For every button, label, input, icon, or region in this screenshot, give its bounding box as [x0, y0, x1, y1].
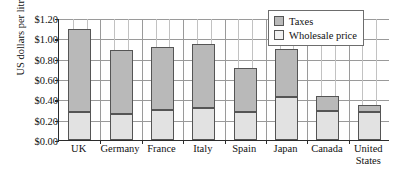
x-axis-tick-label-line: States [348, 155, 389, 167]
bar-group [151, 18, 174, 140]
y-axis-tick-mark [55, 60, 59, 61]
bar-segment-wholesale-price [151, 110, 174, 141]
y-axis-tick-mark [55, 39, 59, 40]
bar-segment-taxes [234, 68, 257, 112]
stacked-bar-chart: US dollars per litre $1.20$1.00$0.80$0.6… [0, 0, 397, 176]
bar-segment-taxes [68, 29, 91, 111]
y-axis-tick-label: $0.00 [18, 136, 58, 147]
x-axis-tick-label: Spain [224, 143, 265, 155]
legend-item-taxes: Taxes [274, 14, 357, 28]
x-axis-tick-label-line: Japan [265, 143, 306, 155]
y-axis-tick-label: $0.40 [18, 95, 58, 106]
y-axis-tick-mark [55, 121, 59, 122]
bar-group [68, 18, 91, 140]
bar-segment-wholesale-price [68, 112, 91, 140]
x-axis-tick-label-line: France [141, 143, 182, 155]
legend-item-wholesale-price: Wholesale price [274, 28, 357, 42]
x-axis-tick-label: Germany [99, 143, 140, 155]
y-axis-tick-label: $0.60 [18, 75, 58, 86]
bar-segment-taxes [192, 44, 215, 108]
bar-segment-wholesale-price [234, 112, 257, 140]
legend-swatch-wholesale-price [274, 30, 284, 40]
x-axis-tick-label: Italy [182, 143, 223, 155]
x-axis-tick-label: France [141, 143, 182, 155]
chart-legend: Taxes Wholesale price [268, 10, 364, 46]
legend-label-taxes: Taxes [289, 16, 313, 27]
bar-segment-taxes [151, 47, 174, 109]
y-axis-tick-label: $1.00 [18, 34, 58, 45]
y-axis-tick-mark [55, 19, 59, 20]
legend-label-wholesale-price: Wholesale price [289, 30, 357, 41]
x-axis-tick-label-line: Spain [224, 143, 265, 155]
bar-group [234, 18, 257, 140]
y-axis-tick-label: $0.20 [18, 115, 58, 126]
y-axis-tick-label: $1.20 [18, 14, 58, 25]
bar-segment-taxes [316, 96, 339, 110]
x-axis-tick-label-line: Germany [99, 143, 140, 155]
y-axis-tick-mark [55, 100, 59, 101]
x-axis-tick-label-line: Canada [306, 143, 347, 155]
bar-group [192, 18, 215, 140]
y-axis-tick-mark [55, 80, 59, 81]
bar-segment-wholesale-price [110, 114, 133, 140]
x-axis-tick-label: Canada [306, 143, 347, 155]
x-axis-tick-label-line: UK [58, 143, 99, 155]
x-axis-tick-label: Japan [265, 143, 306, 155]
bar-segment-taxes [275, 49, 298, 98]
bar-segment-wholesale-price [316, 111, 339, 140]
y-axis-tick-label: $0.80 [18, 54, 58, 65]
bar-segment-wholesale-price [275, 97, 298, 140]
x-axis-tick-label: UK [58, 143, 99, 155]
bar-segment-taxes [110, 50, 133, 114]
bar-group [110, 18, 133, 140]
legend-swatch-taxes [274, 16, 284, 26]
bar-segment-wholesale-price [358, 112, 381, 140]
bar-segment-wholesale-price [192, 108, 215, 140]
x-axis-tick-label: UnitedStates [348, 143, 389, 167]
y-axis-tick-labels: $1.20$1.00$0.80$0.60$0.40$0.20$0.00 [18, 0, 58, 176]
x-axis-tick-label-line: United [348, 143, 389, 155]
x-axis-tick-label-line: Italy [182, 143, 223, 155]
bar-segment-taxes [358, 105, 381, 111]
x-axis-tick-labels: UKGermanyFranceItalySpainJapanCanadaUnit… [58, 143, 389, 176]
